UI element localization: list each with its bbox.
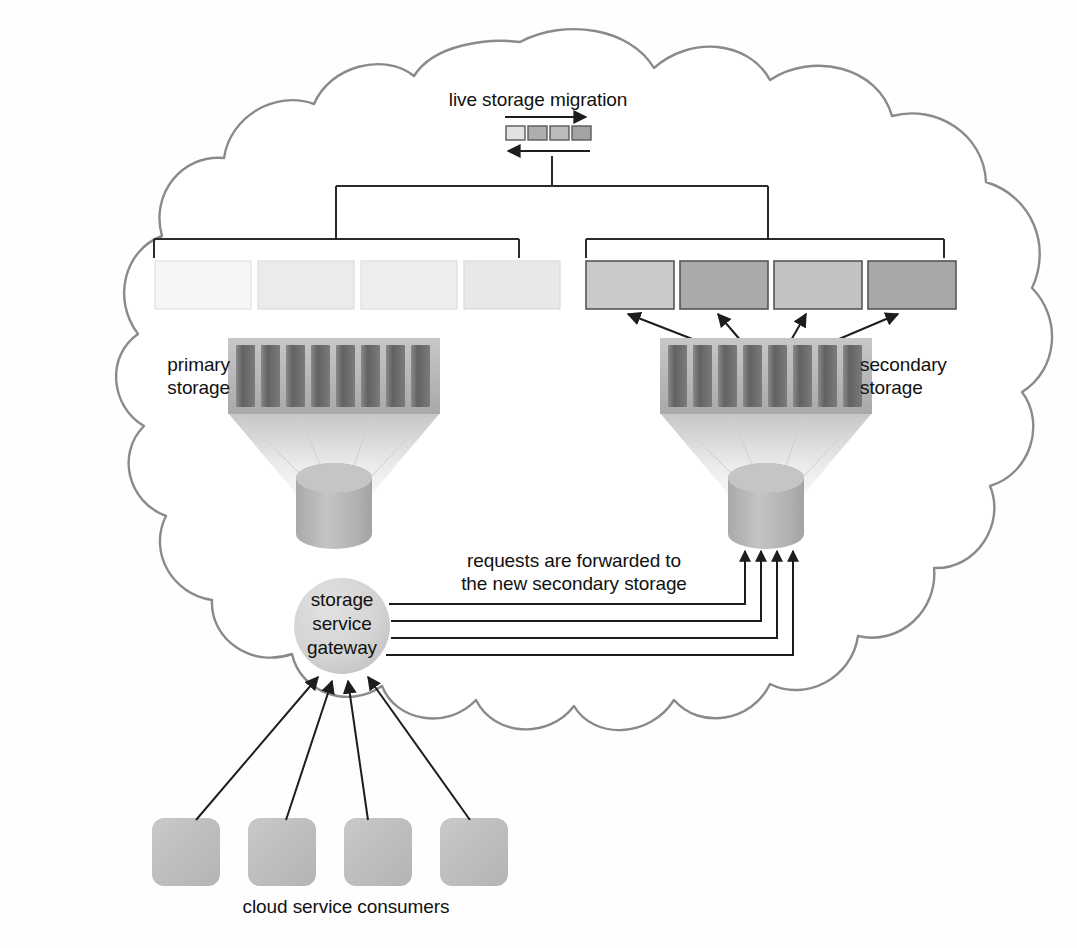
cloud-service-consumers-label: cloud service consumers <box>146 895 546 918</box>
consumer-arrow-1 <box>196 677 318 820</box>
diagram-canvas: live storage migration primary storage s… <box>0 0 1077 948</box>
consumer-box-3[interactable] <box>344 818 412 886</box>
migration-block-4 <box>572 126 591 140</box>
secondary-storage-cylinder <box>728 463 804 549</box>
secondary-lun-1 <box>586 261 674 309</box>
secondary-lun-4 <box>868 261 956 309</box>
live-storage-migration-label: live storage migration <box>338 88 738 111</box>
secondary-storage-label: secondary storage <box>860 353 1060 399</box>
secondary-lun-2 <box>680 261 768 309</box>
secondary-lun-3 <box>774 261 862 309</box>
primary-lun-4 <box>464 261 560 309</box>
primary-storage-cylinder <box>296 463 372 549</box>
primary-lun-2 <box>258 261 354 309</box>
consumer-box-4[interactable] <box>440 818 508 886</box>
cloud-architecture-illustration <box>0 0 1077 948</box>
cloud-service-consumer-group <box>152 818 508 886</box>
consumer-arrow-2 <box>286 681 332 820</box>
consumer-box-1[interactable] <box>152 818 220 886</box>
primary-storage-label: primary storage <box>40 353 230 399</box>
migration-block-3 <box>550 126 569 140</box>
storage-service-gateway-label: storage service gateway <box>296 588 388 660</box>
consumer-arrow-3 <box>348 681 368 820</box>
migration-block-1 <box>506 126 525 140</box>
primary-lun-3 <box>361 261 457 309</box>
migration-block-2 <box>528 126 547 140</box>
request-forwarding-note: requests are forwarded to the new second… <box>394 549 754 595</box>
primary-lun-1 <box>155 261 251 309</box>
consumer-box-2[interactable] <box>248 818 316 886</box>
